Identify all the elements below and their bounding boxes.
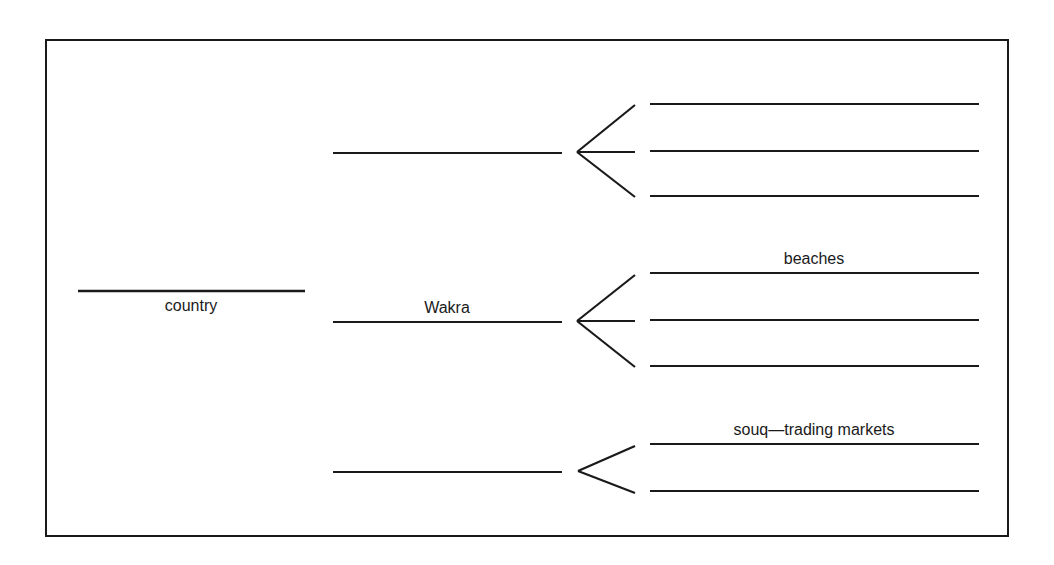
- branch-1: [333, 104, 979, 197]
- fork-bracket-icon: [578, 446, 635, 493]
- tree-diagram: country Wakra beaches souq—: [0, 0, 1054, 565]
- root-label: country: [165, 297, 217, 314]
- fork-bracket-icon: [577, 105, 635, 197]
- leaf-label-souq: souq—trading markets: [734, 421, 895, 438]
- leaf-label-beaches: beaches: [784, 250, 845, 267]
- diagram-frame: [46, 40, 1008, 536]
- branch-2: Wakra beaches: [333, 250, 979, 367]
- root-node: country: [78, 291, 305, 314]
- branch-3: souq—trading markets: [333, 421, 979, 493]
- branch-label-wakra: Wakra: [424, 299, 470, 316]
- fork-bracket-icon: [577, 275, 635, 367]
